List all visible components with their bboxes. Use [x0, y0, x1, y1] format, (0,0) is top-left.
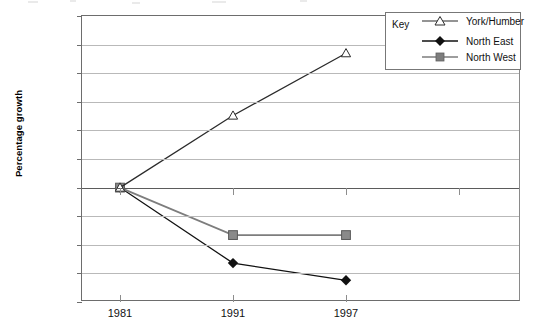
marker-square [229, 231, 238, 240]
y-axis-tick-mark [77, 188, 82, 189]
gridline [82, 273, 519, 274]
legend-title: Key [392, 19, 409, 30]
marker-diamond [341, 275, 351, 285]
legend-item-north-west[interactable]: North West [420, 49, 516, 65]
x-axis-tick-label: 1981 [85, 307, 155, 319]
legend-item-york-humber[interactable]: York/Humber [420, 13, 524, 29]
y-axis-tick-mark [77, 302, 82, 303]
y-axis-tick-mark [77, 130, 82, 131]
legend: Key North East North West [385, 12, 521, 70]
y-axis-tick-mark [77, 273, 82, 274]
gridline [82, 216, 519, 217]
open-triangle-icon [420, 14, 460, 28]
x-axis-tick-mark [346, 188, 347, 195]
x-axis-tick-mark-bottom [233, 295, 234, 302]
line-chart: Percentage growth 3.02.52.01.51.00.50–0.… [0, 0, 533, 328]
x-axis-tick-mark [120, 188, 121, 195]
y-axis-tick-mark [77, 16, 82, 17]
legend-label-north-east: North East [466, 36, 513, 47]
gridline [82, 159, 519, 160]
x-axis-tick-mark-bottom [120, 295, 121, 302]
gridline [82, 102, 519, 103]
y-axis-title: Percentage growth [13, 44, 24, 224]
marker-diamond [228, 258, 238, 268]
gridline [82, 73, 519, 74]
filled-diamond-icon [420, 34, 460, 48]
x-axis-tick-mark [233, 188, 234, 195]
x-axis-tick-label: 1997 [311, 307, 381, 319]
gridline [82, 188, 519, 189]
marker-triangle [341, 49, 350, 57]
marker-square [342, 231, 351, 240]
y-axis-tick-mark [77, 45, 82, 46]
scan-artifact-strip [0, 0, 533, 7]
gridline [82, 130, 519, 131]
gridline [82, 245, 519, 246]
y-axis-tick-mark [77, 102, 82, 103]
x-axis-tick-mark-bottom [346, 295, 347, 302]
y-axis-tick-mark [77, 216, 82, 217]
legend-item-north-east[interactable]: North East [420, 33, 513, 49]
marker-triangle [228, 111, 237, 119]
x-axis-tick-label: 1991 [198, 307, 268, 319]
series-york-humber [115, 49, 350, 192]
x-axis-tick-mark [459, 188, 460, 195]
legend-label-north-west: North West [466, 52, 516, 63]
y-axis-tick-mark [77, 159, 82, 160]
y-axis-tick-mark [77, 245, 82, 246]
legend-label-york-humber: York/Humber [466, 16, 524, 27]
filled-square-icon [420, 50, 460, 64]
y-axis-tick-mark [77, 73, 82, 74]
